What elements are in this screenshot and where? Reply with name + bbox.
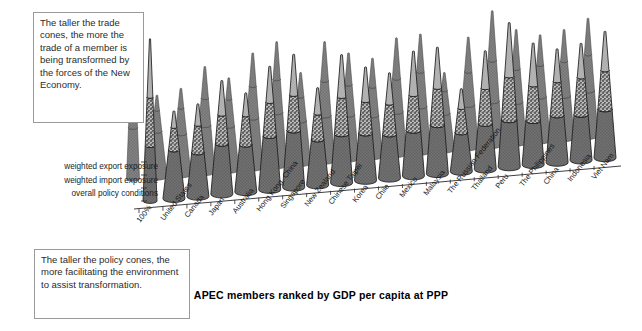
category-label-china: China [542,165,561,186]
category-label-viet-nam: Viet Nam [589,151,615,181]
category-label-malaysia: Malaysia [422,168,448,197]
category-label-peru: Peru [494,172,511,190]
category-label-100: 100% [134,203,153,224]
category-label-indonesia: Indonesia [566,152,593,183]
legend-item-import: weighted import exposure [10,174,158,188]
legend-item-policy: overall policy conditions [10,187,158,201]
category-label-australia: Australia [230,186,255,215]
category-label-canada: Canada [182,193,205,220]
category-label-chile: Chile [374,182,392,201]
category-label-mexico: Mexico [398,175,420,200]
chart-canvas: The taller the trade cones, the more the… [0,0,642,331]
callout-policy-cones: The taller the policy cones, the more fa… [34,249,190,319]
category-label-korea: Korea [350,182,370,204]
callout-trade-cones: The taller the trade cones, the more the… [33,12,144,123]
chart-legend: weighted export exposure weighted import… [10,160,158,201]
category-label-japan: Japan [206,196,226,218]
legend-item-export: weighted export exposure [10,160,158,174]
